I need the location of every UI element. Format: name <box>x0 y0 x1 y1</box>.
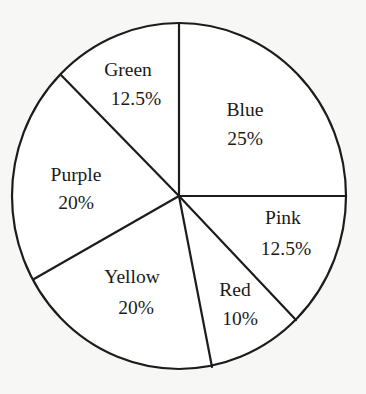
slice-value: 20% <box>118 297 154 318</box>
slice-value: 12.5% <box>261 238 311 259</box>
slice-label: Yellow <box>104 266 159 287</box>
slice-label: Blue <box>227 99 264 120</box>
slice-value: 25% <box>227 128 263 149</box>
slice-value: 12.5% <box>111 88 161 109</box>
pie-chart-svg: Blue 25% Pink 12.5% Red 10% Yellow 20% P… <box>0 0 366 394</box>
pie-chart: Blue 25% Pink 12.5% Red 10% Yellow 20% P… <box>0 0 366 394</box>
slice-label: Red <box>219 279 251 300</box>
slice-value: 20% <box>58 192 94 213</box>
slice-label: Pink <box>265 207 301 228</box>
slice-label: Green <box>104 59 152 80</box>
slice-label: Purple <box>51 164 102 185</box>
slice-value: 10% <box>222 308 258 329</box>
